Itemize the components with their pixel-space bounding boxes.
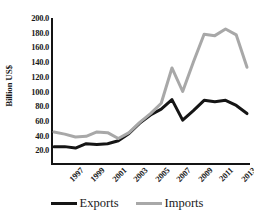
- legend-label-exports: Exports: [80, 197, 119, 210]
- series-lines: [51, 18, 250, 165]
- y-axis-tick-label: 120.0: [16, 73, 49, 82]
- x-axis-tick-label: 2011: [218, 166, 235, 183]
- y-axis-tick-label: 60.0: [16, 117, 49, 126]
- y-axis-title: Billion US$: [2, 26, 16, 146]
- x-axis-tick-labels: 1997199920012003200520072009201120132015: [51, 166, 254, 192]
- chart-legend: ExportsImports: [0, 193, 254, 213]
- y-axis-tick-labels: 20.040.060.080.0100.0120.0140.0160.0180.…: [16, 14, 49, 166]
- y-axis-tick-label: 140.0: [16, 58, 49, 67]
- x-axis-tick-label: 2001: [111, 166, 128, 183]
- series-line-exports: [54, 100, 247, 149]
- legend-entry-exports[interactable]: Exports: [51, 197, 119, 210]
- x-axis-tick-label: 2005: [154, 166, 171, 183]
- legend-label-imports: Imports: [165, 197, 204, 210]
- x-axis-tick-label: 1999: [89, 166, 106, 183]
- line-chart: Billion US$ 20.040.060.080.0100.0120.014…: [0, 0, 254, 220]
- legend-swatch-imports: [136, 202, 162, 205]
- x-axis-tick-label: 2003: [132, 166, 149, 183]
- x-axis-tick-label: 2009: [196, 166, 213, 183]
- legend-swatch-exports: [51, 202, 77, 205]
- x-axis-tick-label: 2013: [239, 166, 254, 183]
- y-axis-tick-label: 200.0: [16, 14, 49, 23]
- y-axis-tick-label: 160.0: [16, 43, 49, 52]
- y-axis-tick-label: 40.0: [16, 131, 49, 140]
- plot-area: [51, 18, 250, 165]
- y-axis-tick-label: 80.0: [16, 102, 49, 111]
- x-axis-tick-label: 1997: [68, 166, 85, 183]
- legend-entry-imports[interactable]: Imports: [136, 197, 204, 210]
- y-axis-tick-label: 100.0: [16, 87, 49, 96]
- series-line-imports: [54, 29, 247, 139]
- y-axis-tick-label: 20.0: [16, 146, 49, 155]
- y-axis-tick-label: 180.0: [16, 28, 49, 37]
- x-axis-tick-label: 2007: [175, 166, 192, 183]
- y-axis-title-text: Billion US$: [4, 65, 14, 107]
